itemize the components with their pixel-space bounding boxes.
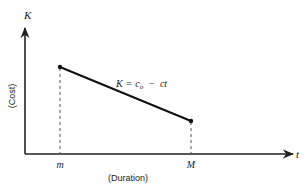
point-m: [58, 65, 62, 69]
y-axis-symbol: K: [23, 9, 32, 21]
x-axis-title: (Duration): [108, 173, 148, 183]
tick-label-M: M: [186, 159, 196, 170]
tick-label-m: m: [56, 159, 63, 170]
point-M: [189, 119, 193, 123]
cost-line: [60, 67, 191, 121]
y-axis-title: (Cost): [7, 84, 17, 109]
equation-label: K = co − ct: [115, 78, 167, 91]
x-axis-symbol: t: [296, 148, 300, 160]
cost-duration-diagram: K t K = co − ct m M (Cost) (Duration): [0, 0, 306, 196]
